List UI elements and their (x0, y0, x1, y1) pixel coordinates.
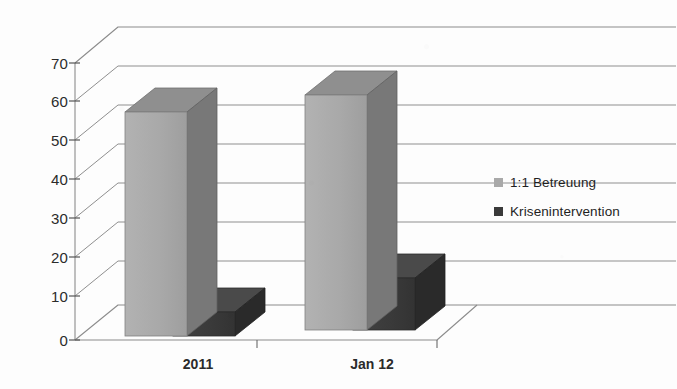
x-tick-label-2011: 2011 (183, 356, 213, 372)
chart-container: 0 10 20 30 40 50 60 70 2011 Jan 12 1:1 B… (0, 0, 677, 389)
y-tick-label-10: 10 (28, 288, 68, 305)
square-marker-icon (494, 178, 503, 187)
y-tick-label-0: 0 (28, 332, 68, 349)
legend-label-krisenintervention: Krisenintervention (510, 204, 620, 219)
chart-legend: 1:1 Betreuung Krisenintervention (494, 168, 620, 226)
y-tick-label-50: 50 (28, 132, 68, 149)
bar-2011-betreuung (125, 88, 217, 336)
legend-item-krisenintervention[interactable]: Krisenintervention (494, 197, 620, 226)
y-tick-label-40: 40 (28, 171, 68, 188)
y-tick-label-60: 60 (28, 93, 68, 110)
wall-top-edge (75, 27, 676, 63)
legend-item-betreuung[interactable]: 1:1 Betreuung (494, 168, 620, 197)
x-tick-marks (257, 340, 437, 348)
y-tick-label-70: 70 (28, 55, 68, 72)
y-tick-label-30: 30 (28, 210, 68, 227)
y-tick-label-20: 20 (28, 249, 68, 266)
square-marker-icon (494, 207, 503, 216)
y-axis-labels: 0 10 20 30 40 50 60 70 (16, 0, 68, 389)
x-tick-label-jan-12: Jan 12 (350, 356, 394, 372)
bar-jan12-betreuung (305, 71, 397, 330)
legend-label-betreuung: 1:1 Betreuung (510, 175, 596, 190)
